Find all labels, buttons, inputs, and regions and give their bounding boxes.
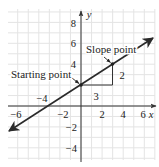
- chart-svg: Starting point Slope point 3 2 −6 −4 −2 …: [0, 0, 159, 167]
- x-tick-label: −2: [57, 109, 68, 120]
- y-tick-label: −2: [66, 122, 77, 133]
- x-tick-label: 2: [99, 109, 104, 120]
- starting-point-marker: [79, 83, 83, 87]
- y-tick-label: −4: [66, 143, 78, 154]
- chart-container: Starting point Slope point 3 2 −6 −4 −2 …: [0, 0, 159, 167]
- x-axis-label: x: [148, 109, 154, 120]
- y-tick-label: 6: [71, 38, 76, 49]
- rise-label: 2: [119, 70, 124, 81]
- y-tick-label: 8: [71, 18, 76, 29]
- starting-point-pointer: [72, 78, 79, 84]
- x-tick-label: −6: [10, 109, 21, 120]
- y-axis-label: y: [86, 9, 92, 20]
- slope-point-label: Slope point: [86, 43, 136, 55]
- x-tick-label: 6: [140, 109, 145, 120]
- starting-point-label: Starting point: [11, 68, 71, 80]
- y-tick-label: 4: [71, 59, 77, 70]
- x-tick-label: −4: [36, 93, 48, 104]
- x-tick-label: 4: [120, 109, 126, 120]
- run-label: 3: [93, 91, 98, 102]
- slope-point-marker: [111, 62, 115, 66]
- slope-point-pointer: [104, 57, 111, 63]
